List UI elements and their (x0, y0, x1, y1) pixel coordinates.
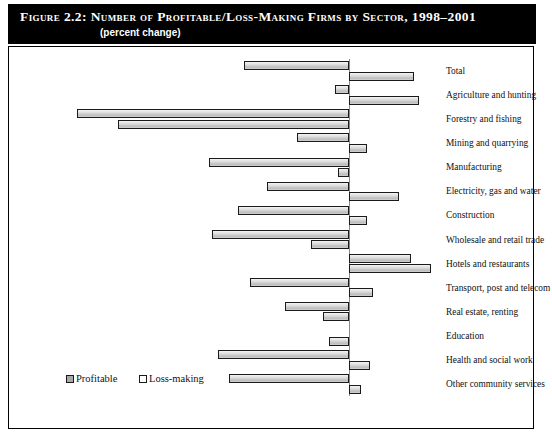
figure-container: Figure 2.2: Number of Profitable/Loss-Ma… (0, 0, 552, 435)
category-label: Transport, post and telecom (446, 283, 550, 293)
figure-title: Figure 2.2: Number of Profitable/Loss-Ma… (20, 9, 476, 25)
category-label: Manufacturing (446, 162, 502, 172)
bar-group (42, 131, 437, 155)
category-label: Other community services (446, 379, 545, 389)
bar-group (42, 348, 437, 372)
bar-profitable (250, 278, 349, 287)
bar-group (42, 59, 437, 83)
figure-subtitle: (percent change) (100, 27, 181, 38)
bar-profitable (267, 182, 349, 191)
bar-group (42, 252, 437, 276)
bar-loss-making (118, 120, 349, 129)
bar-loss-making (349, 96, 419, 105)
bar-loss-making (349, 216, 367, 225)
bar-loss-making (349, 72, 413, 81)
bar-loss-making (311, 240, 349, 249)
plot-area (42, 59, 437, 396)
bar-profitable (297, 133, 350, 142)
bar-profitable (229, 374, 349, 383)
legend-label: Profitable (76, 373, 117, 384)
bar-profitable (285, 302, 349, 311)
bar-profitable (349, 254, 410, 263)
bar-loss-making (329, 337, 349, 346)
bar-group (42, 107, 437, 131)
bar-loss-making (349, 288, 372, 297)
legend-item-profitable[interactable]: Profitable (66, 373, 117, 384)
bar-group (42, 203, 437, 227)
bar-group (42, 179, 437, 203)
category-label: Health and social work (446, 355, 533, 365)
bar-group (42, 324, 437, 348)
category-label: Education (446, 331, 484, 341)
bar-group (42, 83, 437, 107)
legend-swatch-icon (66, 375, 74, 383)
bar-profitable (209, 158, 349, 167)
bar-loss-making (349, 144, 367, 153)
bar-loss-making (349, 264, 431, 273)
bar-group (42, 228, 437, 252)
bar-profitable (212, 230, 350, 239)
bar-loss-making (349, 385, 361, 394)
category-label: Electricity, gas and water (446, 186, 541, 196)
category-label: Hotels and restaurants (446, 259, 529, 269)
category-label: Construction (446, 210, 494, 220)
category-label: Forestry and fishing (446, 114, 522, 124)
legend-label: Loss-making (149, 373, 204, 384)
bar-loss-making (349, 361, 369, 370)
bar-loss-making (338, 168, 350, 177)
bar-loss-making (349, 192, 399, 201)
bar-profitable (335, 85, 350, 94)
legend-swatch-icon (139, 375, 147, 383)
chart-frame: -100-80-60-40-20020 TotalAgriculture and… (8, 46, 534, 429)
legend-item-loss-making[interactable]: Loss-making (139, 373, 204, 384)
bar-profitable (77, 109, 349, 118)
category-label: Total (446, 66, 465, 76)
title-banner: Figure 2.2: Number of Profitable/Loss-Ma… (8, 4, 536, 44)
bar-group (42, 155, 437, 179)
bar-group (42, 300, 437, 324)
category-label: Wholesale and retail trade (446, 235, 544, 245)
category-label: Mining and quarrying (446, 138, 528, 148)
category-label: Real estate, renting (446, 307, 518, 317)
bar-profitable (238, 206, 349, 215)
category-label: Agriculture and hunting (446, 90, 536, 100)
bar-group (42, 276, 437, 300)
bar-profitable (244, 61, 349, 70)
bar-profitable (218, 350, 350, 359)
bar-loss-making (323, 312, 349, 321)
